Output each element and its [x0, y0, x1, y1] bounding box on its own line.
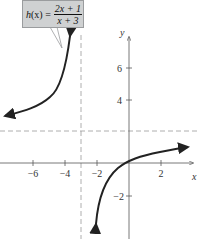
x-tick-label: 2 [159, 168, 164, 179]
x-tick-label: −4 [60, 168, 71, 179]
y-tick-label: −2 [113, 191, 124, 202]
x-tick-label: −6 [28, 168, 39, 179]
formula-pointer [50, 27, 62, 48]
x-tick-label: −2 [92, 168, 103, 179]
function-label-box: h (x) = 2x + 1 x + 3 [22, 0, 84, 28]
y-tick-label: 4 [117, 95, 122, 106]
right-branch-curve [96, 147, 188, 224]
plot-area: −6 −4 −2 2 6 4 −2 y x [0, 0, 197, 239]
function-arg: (x) = [31, 9, 51, 20]
y-axis-label: y [119, 27, 125, 38]
denominator: x + 3 [57, 15, 78, 26]
x-axis-label: x [191, 171, 197, 182]
y-tick-label: 6 [117, 63, 122, 74]
rational-function-graph: −6 −4 −2 2 6 4 −2 y x h (x) = 2x + 1 x +… [0, 0, 197, 239]
fraction: 2x + 1 x + 3 [54, 3, 82, 26]
numerator: 2x + 1 [54, 3, 82, 15]
left-branch-curve [5, 36, 70, 116]
